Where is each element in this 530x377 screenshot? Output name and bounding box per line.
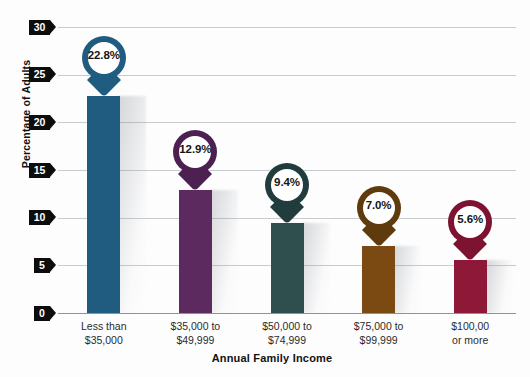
bar-shadow [485,260,513,313]
value-callout-pin: 7.0% [351,186,407,252]
value-callout-pin: 12.9% [167,130,223,196]
bar[interactable] [362,246,395,313]
bar-value-label: 7.0% [351,199,407,211]
chart-title [36,0,516,3]
x-axis-title: Annual Family Income [0,352,530,364]
y-axis-tick-label: 10 [29,210,50,225]
y-axis-tick-label: 15 [29,163,50,178]
bar[interactable] [454,260,487,313]
bar-value-label: 22.8% [76,49,132,61]
y-axis-tick-label: 5 [34,258,50,273]
x-axis-category-line: $100,00 [415,320,525,334]
axis-baseline [58,313,516,314]
y-axis-tick-label: 30 [29,20,50,35]
x-axis-category-line: or more [415,334,525,348]
x-axis-title-text: Annual Family Income [212,352,333,364]
y-axis-tick-label: 20 [29,115,50,130]
bar-shadow [302,223,330,313]
bar[interactable] [271,223,304,313]
bar-value-label: 9.4% [259,176,315,188]
x-axis-category-label: $100,00or more [415,320,525,347]
bar-shadow [393,246,421,313]
bar-chart: Percentage of Adults Annual Family Incom… [0,0,530,377]
value-callout-pin: 22.8% [76,36,132,102]
y-axis-tick-label: 25 [29,67,50,82]
value-callout-pin: 9.4% [259,163,315,229]
value-callout-pin: 5.6% [442,200,498,266]
bar[interactable] [179,190,212,313]
bar-shadow [118,96,146,313]
bar[interactable] [87,96,120,313]
bar-value-label: 5.6% [442,213,498,225]
bar-shadow [210,190,238,313]
y-axis-tick-label: 0 [34,306,50,321]
bar-value-label: 12.9% [167,143,223,155]
gridline [58,27,516,28]
